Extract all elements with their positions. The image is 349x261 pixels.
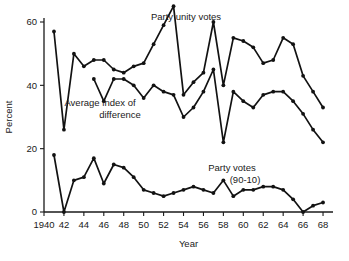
series-point (221, 178, 225, 182)
series-point (132, 64, 136, 68)
x-tick-label: 52 (158, 219, 169, 230)
series-point (72, 178, 76, 182)
series-annotation: Average index of (64, 97, 135, 108)
series-point (162, 194, 166, 198)
x-tick-label: 58 (218, 219, 229, 230)
x-tick-label: 68 (318, 219, 329, 230)
series-point (271, 185, 275, 189)
series-point (92, 77, 96, 81)
series-point (172, 4, 176, 8)
series-point (112, 68, 116, 72)
series-point (321, 106, 325, 110)
series-point (162, 23, 166, 27)
series-point (281, 36, 285, 40)
series-point (231, 194, 235, 198)
x-tick-label: 60 (238, 219, 249, 230)
series-point (301, 74, 305, 78)
series-point (192, 106, 196, 110)
x-tick-label: 66 (298, 219, 309, 230)
series-point (152, 83, 156, 87)
x-tick-label: 50 (138, 219, 149, 230)
x-tick-label: 1940 (33, 219, 54, 230)
series-point (112, 77, 116, 81)
series-annotation: (90-10) (230, 174, 261, 185)
series-point (311, 128, 315, 132)
series-point (202, 188, 206, 192)
series-point (321, 140, 325, 144)
series-point (261, 185, 265, 189)
series-point (82, 64, 86, 68)
x-axis-title: Year (179, 238, 198, 249)
series-point (142, 96, 146, 100)
series-point (202, 90, 206, 94)
series-point (241, 39, 245, 43)
x-tick-label: 48 (118, 219, 129, 230)
series-point (212, 68, 216, 72)
series-point (62, 128, 66, 132)
series-point (182, 115, 186, 119)
series-annotation: Party unity votes (151, 11, 221, 22)
y-tick-label: 40 (26, 80, 37, 91)
series-point (172, 93, 176, 97)
series-point (251, 188, 255, 192)
series-point (152, 191, 156, 195)
y-tick-label: 20 (26, 143, 37, 154)
series-point (122, 77, 126, 81)
series-point (132, 175, 136, 179)
series-point (162, 90, 166, 94)
x-tick-label: 44 (79, 219, 90, 230)
series-point (271, 58, 275, 62)
series-point (291, 42, 295, 46)
series-point (182, 93, 186, 97)
series-point (221, 140, 225, 144)
series-point (142, 188, 146, 192)
line-chart: 020406019404244464850525456586062646668Y… (0, 0, 349, 261)
series-point (251, 45, 255, 49)
series-point (92, 58, 96, 62)
series-point (102, 58, 106, 62)
y-axis-title: Percent (3, 100, 14, 133)
series-point (202, 71, 206, 75)
series-point (231, 90, 235, 94)
series-point (132, 83, 136, 87)
x-tick-label: 56 (198, 219, 209, 230)
series-point (52, 30, 56, 34)
series-point (271, 90, 275, 94)
series-point (172, 191, 176, 195)
series-point (152, 42, 156, 46)
series-point (102, 182, 106, 186)
series-point (261, 93, 265, 97)
series-point (112, 163, 116, 167)
y-tick-label: 60 (26, 16, 37, 27)
series-point (301, 210, 305, 214)
series-point (62, 210, 66, 214)
series-annotation: difference (99, 109, 141, 120)
series-point (311, 90, 315, 94)
series-point (321, 201, 325, 205)
series-point (122, 166, 126, 170)
x-tick-label: 64 (278, 219, 289, 230)
series-point (291, 197, 295, 201)
series-annotation: Party votes (208, 162, 256, 173)
series-point (241, 99, 245, 103)
series-point (92, 156, 96, 160)
series-point (311, 204, 315, 208)
series-point (301, 112, 305, 116)
series-point (281, 188, 285, 192)
series-point (231, 36, 235, 40)
series-point (241, 188, 245, 192)
series-line-2 (54, 155, 323, 212)
x-tick-label: 62 (258, 219, 269, 230)
series-point (192, 80, 196, 84)
x-tick-label: 42 (59, 219, 70, 230)
x-tick-label: 46 (99, 219, 110, 230)
x-tick-label: 54 (178, 219, 189, 230)
series-point (291, 99, 295, 103)
series-point (281, 90, 285, 94)
series-point (251, 106, 255, 110)
series-point (142, 61, 146, 65)
series-point (261, 61, 265, 65)
series-point (82, 175, 86, 179)
series-point (182, 188, 186, 192)
series-point (122, 71, 126, 75)
